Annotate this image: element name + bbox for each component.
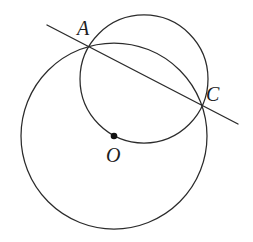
point-label-o: O bbox=[106, 145, 120, 165]
point-label-c: C bbox=[206, 84, 219, 104]
figure-canvas bbox=[0, 0, 253, 242]
secant-line bbox=[47, 25, 238, 124]
center-point-o-dot bbox=[111, 133, 118, 140]
point-label-a: A bbox=[77, 18, 89, 38]
upper-circle bbox=[80, 15, 208, 143]
geometry-figure: A C O bbox=[0, 0, 253, 242]
